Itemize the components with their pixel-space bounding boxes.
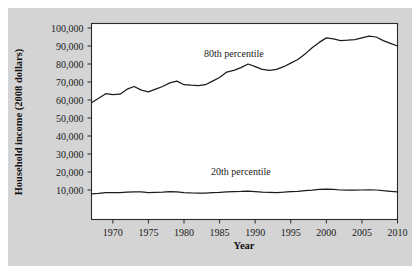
chart-figure: 100,00090,00080,00070,00060,00050,00040,… <box>0 0 420 274</box>
y-tick-label: 30,000 <box>56 149 84 160</box>
x-tick-label: 1970 <box>103 227 123 238</box>
series-label-20th-percentile: 20th percentile <box>211 166 271 177</box>
x-tick-label: 1975 <box>138 227 158 238</box>
y-tick-label: 80,000 <box>56 59 84 70</box>
y-tick-label: 50,000 <box>56 113 84 124</box>
x-tick-label: 1980 <box>174 227 194 238</box>
y-axis-title: Household income (2008 dollars) <box>13 48 25 195</box>
x-tick-label: 1990 <box>245 227 265 238</box>
x-axis-ticks <box>113 220 398 224</box>
x-tick-label: 1995 <box>281 227 301 238</box>
y-tick-label: 100,000 <box>51 23 84 34</box>
y-tick-label: 70,000 <box>56 77 84 88</box>
x-tick-label: 2000 <box>316 227 336 238</box>
y-axis-ticks <box>88 28 92 190</box>
y-tick-label: 20,000 <box>56 167 84 178</box>
x-axis-title: Year <box>234 240 255 251</box>
y-tick-label: 10,000 <box>56 185 84 196</box>
x-axis-tick-labels: 197019751980198519901995200020052010 <box>103 227 408 238</box>
series-label-80th-percentile: 80th percentile <box>204 48 264 59</box>
y-tick-label: 40,000 <box>56 131 84 142</box>
y-tick-label: 90,000 <box>56 41 84 52</box>
x-tick-label: 2010 <box>388 227 408 238</box>
x-tick-label: 2005 <box>352 227 372 238</box>
y-tick-label: 60,000 <box>56 95 84 106</box>
chart-plot-area: 100,00090,00080,00070,00060,00050,00040,… <box>0 0 420 274</box>
x-tick-label: 1985 <box>210 227 230 238</box>
y-axis-tick-labels: 100,00090,00080,00070,00060,00050,00040,… <box>51 23 84 196</box>
